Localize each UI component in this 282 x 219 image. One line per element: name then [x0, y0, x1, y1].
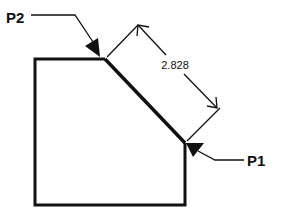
chamfer-edge	[105, 59, 185, 143]
diagram-canvas: 2.828 P2 P1	[0, 0, 282, 219]
dimension-line-upper	[138, 25, 166, 55]
chamfered-shape-outline	[35, 59, 185, 205]
dimension-value: 2.828	[161, 59, 189, 71]
extension-line-p1	[187, 108, 220, 141]
chamfer-diagram: 2.828 P2 P1	[0, 0, 282, 219]
leader-line-p1	[198, 151, 244, 160]
arrowhead-p1-icon	[186, 143, 204, 157]
dimension-line-lower	[184, 74, 217, 108]
leader-line-p2	[31, 15, 93, 42]
extension-line-p2	[107, 25, 138, 57]
label-p1: P1	[247, 152, 265, 169]
label-p2: P2	[6, 9, 24, 26]
